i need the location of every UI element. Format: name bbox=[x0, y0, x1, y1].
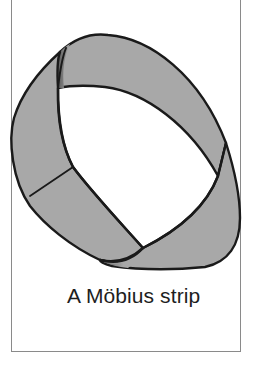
strip-top-band bbox=[57, 35, 226, 176]
mobius-strip-illustration bbox=[0, 0, 257, 367]
figure-caption: A Möbius strip bbox=[67, 284, 200, 308]
